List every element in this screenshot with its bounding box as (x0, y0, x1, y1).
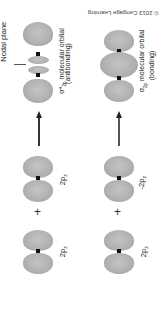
sigma-star-symbol: σ* (58, 87, 65, 94)
outer-lobe-bottom (104, 80, 134, 102)
antibonding-result-label (38, 35, 50, 75)
bonding-plus-operator: + (114, 206, 121, 218)
lobe-top (104, 156, 134, 178)
arrow-shaft (38, 116, 40, 146)
bonding-mo-text: molecular orbital (138, 30, 145, 81)
arrow-shaft (118, 116, 120, 146)
lobe-bottom (104, 253, 134, 274)
arrow-up-icon (36, 111, 42, 118)
copyright-text: © 2013 Cengage Learning (88, 10, 158, 16)
bonding-kind-label: (bonding) (148, 51, 155, 81)
sigma-symbol: σ (138, 88, 145, 92)
lobe-top (23, 156, 53, 178)
bonding-mo-label: σ2p molecular orbital (138, 30, 148, 93)
orbital-label: 2p (58, 177, 67, 185)
diagram-canvas: © 2013 Cengage Learning Nodal plane σ*2p… (0, 0, 168, 314)
lobe-top (23, 230, 53, 251)
orbital-subscript: z (141, 176, 147, 179)
bonding-orbital-b-label: -2pz (138, 176, 148, 189)
outer-lobe-bottom (23, 79, 53, 103)
nodal-plane-line (14, 64, 26, 65)
lobe-bottom (23, 253, 53, 274)
antibonding-kind-label: (antibonding) (64, 43, 71, 84)
bonding-orbital-a-label: 2pz (140, 246, 150, 257)
nodal-plane-label: Nodal plane (0, 22, 8, 62)
lobe-top (104, 230, 134, 251)
antibonding-orbital-a-label: 2pz (59, 174, 69, 185)
arrow-up-icon (116, 111, 122, 118)
orbital-label: -2p (137, 179, 146, 190)
orbital-subscript: z (62, 174, 68, 177)
antibonding-plus-operator: + (34, 206, 41, 218)
antibonding-orbital-b-label: 2pz (59, 246, 69, 257)
central-lobe (100, 52, 138, 78)
orbital-label: 2p (139, 249, 148, 257)
sigma-subscript: 2p (143, 83, 148, 88)
orbital-label: 2p (58, 249, 67, 257)
orbital-subscript: z (143, 246, 149, 249)
orbital-subscript: z (62, 246, 68, 249)
lobe-bottom (23, 180, 53, 202)
lobe-bottom (104, 180, 134, 202)
